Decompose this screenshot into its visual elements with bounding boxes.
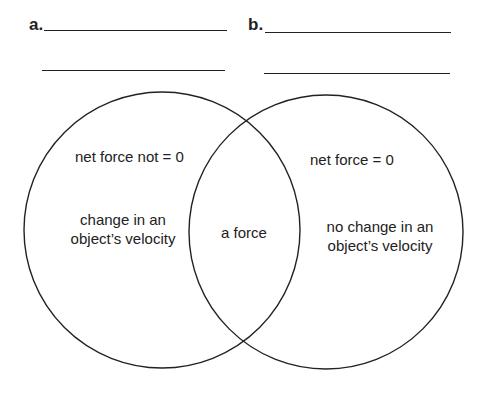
left-result-line1: change in an — [58, 210, 188, 229]
left-result: change in an object’s velocity — [58, 210, 188, 248]
right-result: no change in an object’s velocity — [315, 217, 445, 255]
right-condition: net force = 0 — [310, 150, 394, 169]
venn-diagram — [0, 0, 484, 394]
left-condition: net force not = 0 — [75, 147, 184, 166]
right-result-line2: object’s velocity — [315, 236, 445, 255]
right-result-line1: no change in an — [315, 217, 445, 236]
left-result-line2: object’s velocity — [58, 229, 188, 248]
overlap-text: a force — [221, 223, 267, 242]
